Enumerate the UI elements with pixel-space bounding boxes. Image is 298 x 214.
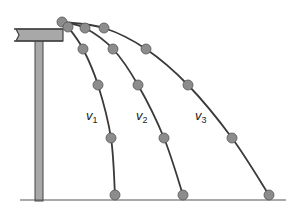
label-v1: v1 <box>86 109 98 125</box>
ball-v3-1 <box>99 23 109 33</box>
ball-v3-3 <box>183 80 193 90</box>
ball-v2-2 <box>108 44 118 54</box>
label-subscript: 1 <box>93 115 98 125</box>
table-leg <box>35 40 43 201</box>
projectile-diagram <box>0 0 298 214</box>
ball-v2-1 <box>80 23 90 33</box>
ball-v2-5 <box>178 190 188 200</box>
ball-v2-3 <box>133 80 143 90</box>
ball-v1-3 <box>93 80 103 90</box>
ball-v2-4 <box>159 133 169 143</box>
ball-v3-2 <box>141 44 151 54</box>
label-subscript: 3 <box>202 115 207 125</box>
ball-v1-5 <box>110 190 120 200</box>
label-v3: v3 <box>195 109 207 125</box>
ball-v3-4 <box>227 133 237 143</box>
ball-v3-5 <box>264 190 274 200</box>
ball-v1-2 <box>78 44 88 54</box>
label-v2: v2 <box>136 109 148 125</box>
table-top <box>16 29 63 41</box>
ball-v1-4 <box>106 133 116 143</box>
label-subscript: 2 <box>143 115 148 125</box>
ball-v1-1 <box>63 22 73 32</box>
